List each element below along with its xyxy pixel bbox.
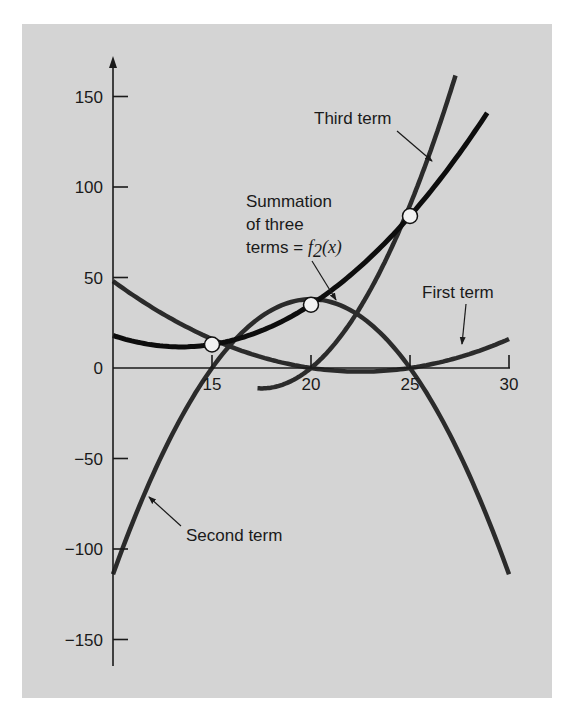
y-tick-label: −50 xyxy=(74,450,103,469)
y-tick-label: −100 xyxy=(65,540,103,559)
y-tick-label: 50 xyxy=(84,269,103,288)
summation-label-prefix: terms = xyxy=(246,238,308,257)
y-tick-label: 150 xyxy=(75,88,103,107)
second-term-label: Second term xyxy=(186,526,282,545)
data-point-markers xyxy=(205,208,418,352)
x-tick-label: 30 xyxy=(500,375,519,394)
data-point-marker xyxy=(205,337,220,352)
third-term-arrow xyxy=(397,131,432,161)
y-tick-label: 0 xyxy=(94,359,103,378)
x-tick-label: 20 xyxy=(302,375,321,394)
third-term-label: Third term xyxy=(314,109,391,128)
summation-func-subscript: 2 xyxy=(313,241,322,261)
summation-label-line2: of three xyxy=(246,215,304,234)
first-term-arrow xyxy=(462,304,466,344)
y-tick-label: 100 xyxy=(75,178,103,197)
second-term-arrow xyxy=(149,497,181,526)
y-axis-arrow-icon xyxy=(109,56,117,68)
summation-func-arg: (x) xyxy=(322,237,342,258)
second-term-curve xyxy=(113,299,509,574)
data-point-marker xyxy=(403,208,418,223)
x-axis-ticks: 15202530 xyxy=(203,355,519,394)
summation-label-line3: terms = f2(x) xyxy=(246,237,342,261)
y-tick-label: −150 xyxy=(65,631,103,650)
chart-plot: 150100500−50−100−150 15202530 Third term… xyxy=(0,0,565,710)
x-tick-label: 15 xyxy=(203,375,222,394)
summation-label-line1: Summation xyxy=(246,192,332,211)
data-point-marker xyxy=(304,297,319,312)
x-tick-label: 25 xyxy=(401,375,420,394)
first-term-label: First term xyxy=(422,283,494,302)
